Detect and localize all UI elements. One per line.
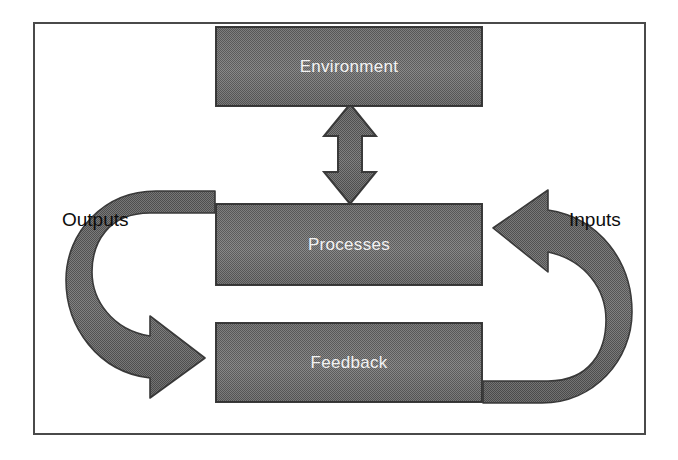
double-arrow-environment-processes — [324, 104, 376, 204]
node-feedback[interactable]: Feedback — [215, 322, 483, 403]
node-processes[interactable]: Processes — [215, 203, 483, 286]
label-inputs: Inputs — [569, 210, 621, 229]
node-feedback-label: Feedback — [310, 353, 387, 373]
diagram-canvas: Environment Processes Feedback Outputs I… — [0, 0, 678, 460]
label-outputs: Outputs — [62, 210, 129, 229]
node-environment[interactable]: Environment — [215, 26, 483, 107]
node-environment-label: Environment — [300, 57, 399, 77]
node-processes-label: Processes — [308, 235, 390, 255]
